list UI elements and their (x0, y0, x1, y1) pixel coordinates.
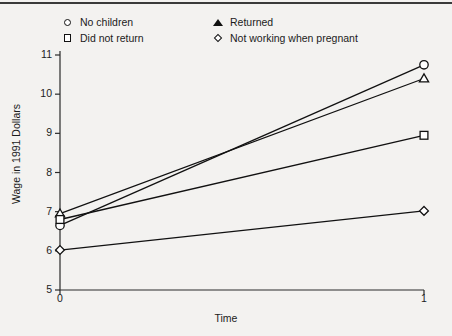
series-line (60, 65, 424, 226)
chart-figure: No children Returned Did not return Not … (0, 0, 452, 336)
series-line (60, 79, 424, 214)
data-point-marker (420, 131, 428, 139)
series-line (60, 135, 424, 219)
plot-area (0, 0, 452, 336)
data-point-marker (420, 61, 428, 69)
axis-lines (60, 51, 424, 290)
data-point-marker (419, 74, 428, 82)
data-point-marker (420, 206, 429, 215)
data-point-marker (56, 246, 65, 255)
series-line (60, 211, 424, 250)
data-point-marker (56, 216, 64, 224)
